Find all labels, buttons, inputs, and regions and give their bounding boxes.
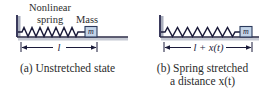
dimension-label: l — [58, 42, 61, 53]
dimension-arrow-left — [165, 45, 171, 50]
panel-caption-b: (b) Spring stretched a distance x(t) — [135, 62, 270, 88]
dimension-label: l + x(t) — [194, 42, 224, 54]
spring-mass-diagram-stretched: m l + x(t) — [135, 0, 270, 60]
dimension-arrow-right — [246, 45, 252, 50]
caption-line-2: a distance x(t) — [135, 75, 270, 88]
spring-coil — [161, 28, 240, 37]
figure-container: Nonlinear spring Mass m — [0, 0, 270, 103]
spring-mass-diagram-unstretched: m l — [0, 0, 135, 60]
spring-coil — [18, 28, 85, 37]
dimension-arrow-left — [22, 45, 28, 50]
panel-unstretched: Nonlinear spring Mass m — [0, 0, 135, 103]
panel-caption-a: (a) Unstretched state — [0, 62, 135, 75]
caption-line-1: (a) Unstretched state — [0, 62, 135, 75]
caption-line-1: (b) Spring stretched — [135, 62, 270, 75]
floor-shadow — [161, 38, 259, 41]
mass-symbol: m — [243, 27, 249, 36]
panel-stretched: m l + x(t) (b) Spring stretched a distan… — [135, 0, 270, 103]
mass-symbol: m — [88, 27, 94, 36]
floor-shadow — [18, 38, 128, 41]
dimension-arrow-right — [91, 45, 97, 50]
